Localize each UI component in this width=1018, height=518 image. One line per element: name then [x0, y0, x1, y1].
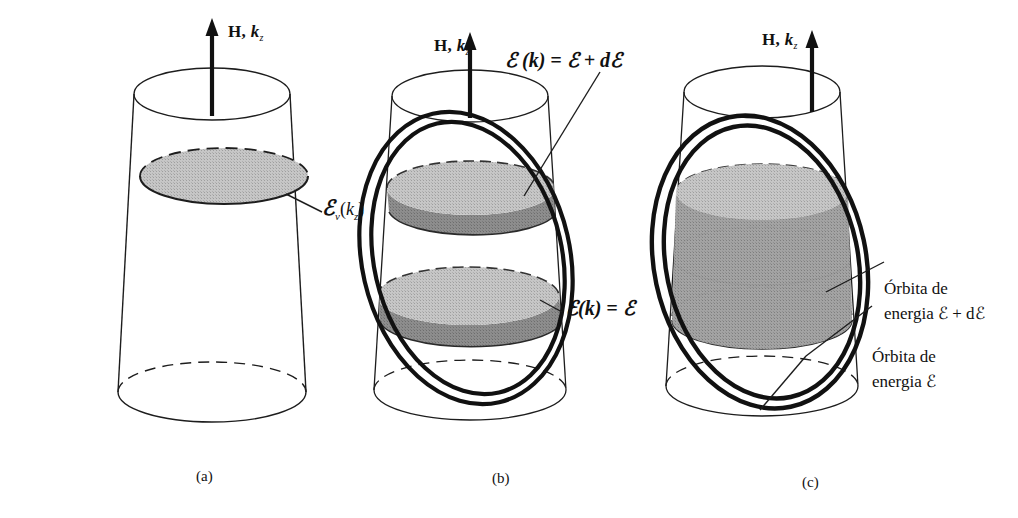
outer-orbit-label-c: Órbita de energia ℰ + dℰ	[884, 276, 985, 326]
landau-cylinder-figure	[0, 0, 1018, 518]
field-axis-label-a: H, kz	[228, 22, 264, 43]
field-axis-label-b-bold: H,	[434, 36, 452, 55]
field-axis-label-a-sub: z	[259, 32, 263, 43]
field-axis-label-c-sub: z	[793, 40, 797, 51]
panel-caption-b: (b)	[492, 470, 510, 487]
arg-close-a: )	[358, 199, 364, 219]
script-e-a: ℰ	[322, 196, 335, 220]
outer-orbit-label-b: ℰ (k) = ℰ + dℰ	[505, 48, 622, 72]
inner-orbit-label-c-line2: energia ℰ	[872, 369, 936, 394]
outer-orbit-label-c-line2: energia ℰ + dℰ	[884, 301, 985, 326]
inner-orbit-label-c: Órbita de energia ℰ	[872, 344, 936, 394]
field-axis-label-a-bold: H,	[228, 22, 246, 41]
energy-level-label-a: ℰν(kz)	[322, 196, 364, 222]
panel-caption-a: (a)	[196, 468, 213, 485]
field-axis-label-b-sub: z	[465, 46, 469, 57]
inner-orbit-label-b: ℰ(k) = ℰ	[566, 296, 635, 320]
lower-energy-band-b	[377, 267, 562, 347]
arg-k-a: k	[346, 199, 354, 219]
field-axis-label-b: H, kz	[434, 36, 470, 57]
panel-caption-c: (c)	[802, 474, 819, 491]
energy-volume-orbit-clip-c	[672, 164, 852, 349]
outer-orbit-label-c-line1: Órbita de	[884, 276, 985, 301]
inner-orbit-label-c-line1: Órbita de	[872, 344, 936, 369]
field-axis-label-c: H, kz	[762, 30, 798, 51]
field-axis-label-c-bold: H,	[762, 30, 780, 49]
energy-disc-a	[140, 148, 308, 204]
